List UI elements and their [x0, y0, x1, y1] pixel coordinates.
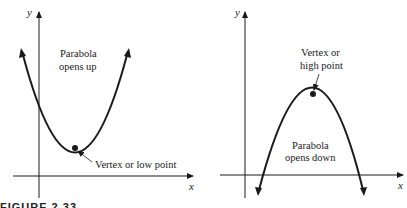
opens-up-title-1: Parabola: [60, 48, 97, 59]
opens-down-title-1: Parabola: [292, 140, 329, 151]
left-curve-arrow-icon: [19, 48, 26, 58]
left-down-arrow-icon: [255, 187, 262, 196]
left-y-label: y: [26, 6, 32, 18]
right-x-label: x: [397, 179, 403, 191]
vertex-low-label: Vertex or low point: [95, 159, 176, 170]
parabola-figure: y x Vertex or low point Parabola opens u…: [0, 0, 407, 208]
right-panel: y x Vertex or high point Parabola opens …: [220, 6, 403, 198]
right-down-arrow-icon: [360, 187, 367, 196]
figure-caption: FIGURE 2.33: [0, 201, 77, 208]
left-x-label: x: [188, 180, 194, 192]
right-y-label: y: [234, 6, 240, 18]
left-panel: y x Vertex or low point Parabola opens u…: [13, 6, 194, 198]
vertex-low-point: [72, 145, 78, 151]
vertex-high-label-1: Vertex or: [301, 47, 340, 58]
right-curve-arrow-icon: [124, 48, 131, 58]
vertex-pointer: [78, 151, 92, 162]
vertex-high-point: [310, 91, 316, 97]
opens-down-title-2: opens down: [285, 152, 336, 163]
vertex-high-label-2: high point: [300, 60, 343, 71]
opens-up-title-2: opens up: [59, 61, 97, 72]
